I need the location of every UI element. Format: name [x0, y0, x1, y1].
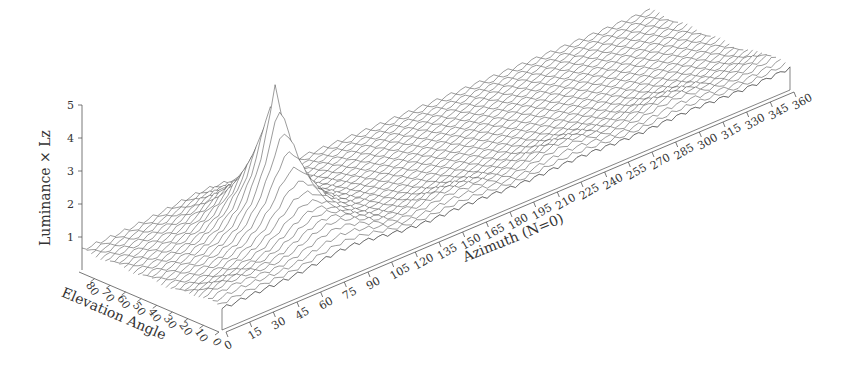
- azimuth-tick: [273, 312, 275, 317]
- elevation-tick-label: 0: [210, 335, 225, 348]
- azimuth-tick: [699, 132, 701, 137]
- azimuth-tick: [581, 182, 583, 187]
- azimuth-tick: [368, 272, 370, 277]
- z-tick-label: 2: [67, 198, 74, 211]
- z-axis-title: Luminance × Lz: [37, 130, 53, 246]
- azimuth-tick-label: 360: [790, 91, 815, 113]
- azimuth-tick-label: 30: [269, 314, 288, 332]
- azimuth-tick: [510, 212, 512, 217]
- azimuth-tick: [321, 292, 323, 297]
- z-tick-label: 1: [67, 231, 74, 244]
- azimuth-tick: [747, 112, 749, 117]
- surface-mesh: [82, 9, 790, 330]
- azimuth-tick: [605, 172, 607, 177]
- azimuth-tick: [652, 152, 654, 157]
- azimuth-tick: [439, 242, 441, 247]
- azimuth-tick: [463, 232, 465, 237]
- azimuth-tick: [723, 122, 725, 127]
- azimuth-tick: [676, 142, 678, 147]
- azimuth-tick: [486, 222, 488, 227]
- azimuth-tick: [392, 262, 394, 267]
- z-tick-label: 3: [67, 165, 74, 178]
- z-tick-label: 5: [67, 99, 74, 112]
- azimuth-tick-label: 300: [695, 131, 720, 153]
- azimuth-tick-label: 75: [340, 284, 359, 302]
- azimuth-tick-label: 210: [553, 191, 578, 213]
- azimuth-tick-label: 45: [293, 304, 312, 322]
- elevation-tick: [215, 332, 219, 335]
- azimuth-tick-label: 270: [648, 151, 673, 173]
- azimuth-tick: [628, 162, 630, 167]
- azimuth-tick-label: 345: [766, 101, 791, 123]
- azimuth-tick: [415, 252, 417, 257]
- azimuth-tick: [250, 322, 252, 327]
- azimuth-tick-label: 225: [577, 181, 602, 203]
- azimuth-tick: [297, 302, 299, 307]
- azimuth-tick-label: 315: [719, 121, 744, 143]
- azimuth-tick-label: 60: [317, 294, 336, 312]
- azimuth-tick: [770, 102, 772, 107]
- azimuth-tick-label: 105: [388, 261, 413, 283]
- azimuth-tick: [557, 192, 559, 197]
- luminance-surface-chart: 12345Luminance × Lz015304560759010512013…: [0, 0, 852, 365]
- azimuth-tick-label: 15: [246, 324, 265, 342]
- azimuth-tick-label: 120: [411, 251, 436, 273]
- azimuth-tick: [534, 202, 536, 207]
- azimuth-tick-label: 285: [672, 141, 697, 163]
- azimuth-tick-label: 330: [743, 111, 768, 133]
- z-tick-label: 4: [67, 132, 74, 145]
- azimuth-tick-label: 255: [624, 161, 649, 183]
- azimuth-tick: [794, 92, 796, 97]
- azimuth-tick-label: 90: [364, 274, 383, 292]
- azimuth-tick-label: 135: [435, 241, 460, 263]
- azimuth-tick: [226, 332, 228, 337]
- azimuth-tick-label: 240: [601, 171, 626, 193]
- azimuth-tick: [344, 282, 346, 287]
